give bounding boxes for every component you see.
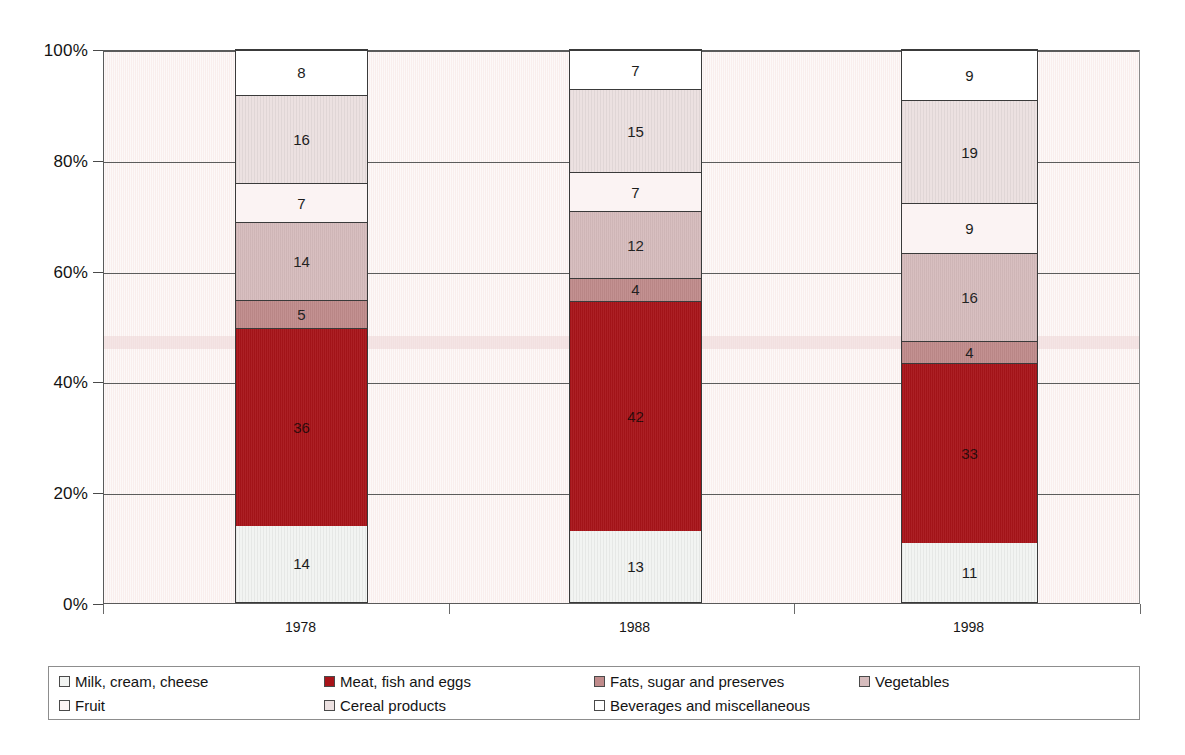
segment-1988-fats-sugar-and-preserves[interactable]: 4: [570, 278, 701, 301]
segment-1978-vegetables[interactable]: 14: [236, 222, 367, 299]
segment-value-label: 5: [297, 307, 305, 322]
segment-1988-fruit[interactable]: 7: [570, 172, 701, 211]
legend-item-meat-fish-and-eggs[interactable]: Meat, fish and eggs: [324, 674, 471, 689]
y-tick-mark-40: [93, 382, 103, 383]
segment-value-label: 11: [962, 565, 978, 580]
legend-swatch-icon: [59, 700, 70, 711]
legend: Milk, cream, cheeseMeat, fish and eggsFa…: [48, 666, 1140, 720]
plot-area: 143651471681342412715711334169199: [103, 50, 1140, 604]
legend-item-fruit[interactable]: Fruit: [59, 698, 105, 713]
y-tick-mark-100: [93, 50, 103, 51]
y-tick-label-80: 80%: [18, 153, 88, 170]
segment-1978-milk-cream-cheese[interactable]: 14: [236, 526, 367, 602]
legend-swatch-icon: [59, 676, 70, 687]
segment-1998-beverages-and-miscellaneous[interactable]: 9: [902, 50, 1037, 100]
segment-1988-beverages-and-miscellaneous[interactable]: 7: [570, 50, 701, 89]
x-tick-mark-1: [449, 604, 450, 614]
legend-item-fats-sugar-and-preserves[interactable]: Fats, sugar and preserves: [594, 674, 784, 689]
x-axis-label-1978: 1978: [241, 620, 361, 634]
segment-value-label: 36: [293, 420, 310, 435]
x-axis-label-1988: 1988: [575, 620, 695, 634]
stacked-column-chart: 143651471681342412715711334169199 100%80…: [0, 0, 1185, 755]
legend-swatch-icon: [324, 676, 335, 687]
segment-1978-cereal-products[interactable]: 16: [236, 95, 367, 183]
segment-1978-fruit[interactable]: 7: [236, 183, 367, 222]
y-tick-mark-0: [93, 604, 103, 605]
legend-swatch-icon: [594, 700, 605, 711]
legend-item-label: Fats, sugar and preserves: [610, 674, 784, 689]
legend-item-label: Beverages and miscellaneous: [610, 698, 810, 713]
x-tick-mark-0: [103, 604, 104, 614]
segment-1988-meat-fish-and-eggs[interactable]: 42: [570, 301, 701, 531]
segment-value-label: 7: [631, 185, 639, 200]
segment-value-label: 4: [965, 345, 973, 360]
segment-1988-cereal-products[interactable]: 15: [570, 89, 701, 172]
segment-value-label: 13: [627, 559, 644, 574]
segment-value-label: 4: [631, 282, 639, 297]
segment-1978-fats-sugar-and-preserves[interactable]: 5: [236, 300, 367, 328]
segment-value-label: 9: [965, 68, 973, 83]
legend-swatch-icon: [859, 676, 870, 687]
segment-value-label: 15: [627, 124, 644, 139]
segment-value-label: 7: [631, 63, 639, 78]
segment-value-label: 9: [965, 221, 973, 236]
segment-value-label: 16: [961, 290, 978, 305]
column-1988[interactable]: 13424127157: [569, 49, 702, 603]
y-tick-label-20: 20%: [18, 485, 88, 502]
segment-1998-fruit[interactable]: 9: [902, 203, 1037, 253]
legend-item-label: Vegetables: [875, 674, 949, 689]
segment-1998-vegetables[interactable]: 16: [902, 253, 1037, 341]
segment-value-label: 14: [293, 556, 310, 571]
segment-1978-meat-fish-and-eggs[interactable]: 36: [236, 328, 367, 526]
y-tick-label-40: 40%: [18, 374, 88, 391]
legend-item-label: Fruit: [75, 698, 105, 713]
segment-value-label: 14: [293, 254, 310, 269]
segment-1988-vegetables[interactable]: 12: [570, 211, 701, 278]
segment-value-label: 19: [961, 145, 978, 160]
legend-item-vegetables[interactable]: Vegetables: [859, 674, 949, 689]
y-tick-mark-60: [93, 272, 103, 273]
y-tick-label-0: 0%: [18, 596, 88, 613]
segment-1998-cereal-products[interactable]: 19: [902, 100, 1037, 204]
segment-value-label: 12: [627, 238, 644, 253]
segment-1978-beverages-and-miscellaneous[interactable]: 8: [236, 50, 367, 95]
x-tick-mark-2: [794, 604, 795, 614]
segment-1988-milk-cream-cheese[interactable]: 13: [570, 531, 701, 602]
segment-value-label: 16: [293, 132, 310, 147]
segment-value-label: 42: [627, 409, 644, 424]
legend-swatch-icon: [594, 676, 605, 687]
legend-swatch-icon: [324, 700, 335, 711]
segment-1998-meat-fish-and-eggs[interactable]: 33: [902, 363, 1037, 542]
y-tick-mark-20: [93, 493, 103, 494]
legend-item-beverages-and-miscellaneous[interactable]: Beverages and miscellaneous: [594, 698, 810, 713]
y-tick-mark-80: [93, 161, 103, 162]
segment-1998-fats-sugar-and-preserves[interactable]: 4: [902, 341, 1037, 364]
segment-value-label: 33: [961, 446, 978, 461]
y-tick-label-100: 100%: [18, 42, 88, 59]
legend-item-label: Meat, fish and eggs: [340, 674, 471, 689]
legend-item-label: Cereal products: [340, 698, 446, 713]
segment-1998-milk-cream-cheese[interactable]: 11: [902, 543, 1037, 602]
column-1998[interactable]: 11334169199: [901, 49, 1038, 603]
x-axis-label-1998: 1998: [909, 620, 1029, 634]
legend-item-milk-cream-cheese[interactable]: Milk, cream, cheese: [59, 674, 208, 689]
y-tick-label-60: 60%: [18, 264, 88, 281]
segment-value-label: 7: [297, 196, 305, 211]
legend-item-label: Milk, cream, cheese: [75, 674, 208, 689]
x-tick-mark-3: [1140, 604, 1141, 614]
legend-item-cereal-products[interactable]: Cereal products: [324, 698, 446, 713]
segment-value-label: 8: [297, 65, 305, 80]
column-1978[interactable]: 14365147168: [235, 49, 368, 603]
